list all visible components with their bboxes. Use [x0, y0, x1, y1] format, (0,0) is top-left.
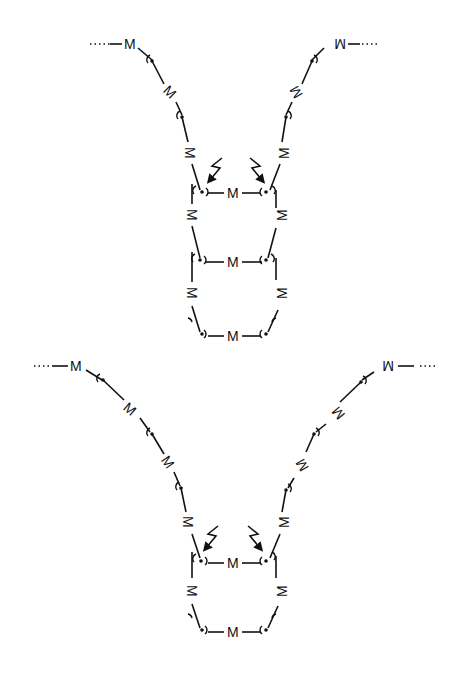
photo-excitation-arrow-icon	[206, 526, 218, 548]
unit-label: M	[180, 516, 196, 528]
unit-label: M	[274, 585, 290, 597]
top-structure: M M M M M M	[90, 36, 380, 344]
unit-label: M	[334, 36, 346, 52]
unit-label: M	[160, 82, 180, 102]
unit-label: M	[382, 358, 394, 374]
unit-label: M	[182, 147, 198, 159]
unit-label: M	[70, 358, 82, 374]
unit-label: M	[286, 83, 306, 101]
unit-label: M	[184, 585, 200, 597]
photo-excitation-arrow-icon	[210, 158, 222, 180]
unit-label: M	[276, 516, 292, 528]
bottom-structure: M M M M M M M M	[34, 358, 438, 640]
unit-label: M	[124, 36, 136, 52]
unit-label: M	[274, 287, 290, 299]
photo-excitation-arrow-icon	[248, 526, 260, 548]
unit-label: M	[292, 456, 312, 474]
unit-label: M	[184, 287, 200, 299]
rung-label: M	[227, 328, 239, 344]
unit-label: M	[120, 399, 139, 419]
rung-label: M	[227, 185, 239, 201]
photo-excitation-arrow-icon	[250, 158, 262, 180]
unit-label: M	[276, 147, 292, 159]
diagram-canvas: M M M M M M	[0, 0, 460, 683]
unit-label: M	[274, 209, 290, 221]
rung-label: M	[227, 254, 239, 270]
unit-label: M	[184, 209, 200, 221]
unit-label: M	[158, 452, 178, 471]
rung-label: M	[227, 555, 239, 571]
unit-label: M	[328, 404, 348, 423]
rung-label: M	[227, 624, 239, 640]
